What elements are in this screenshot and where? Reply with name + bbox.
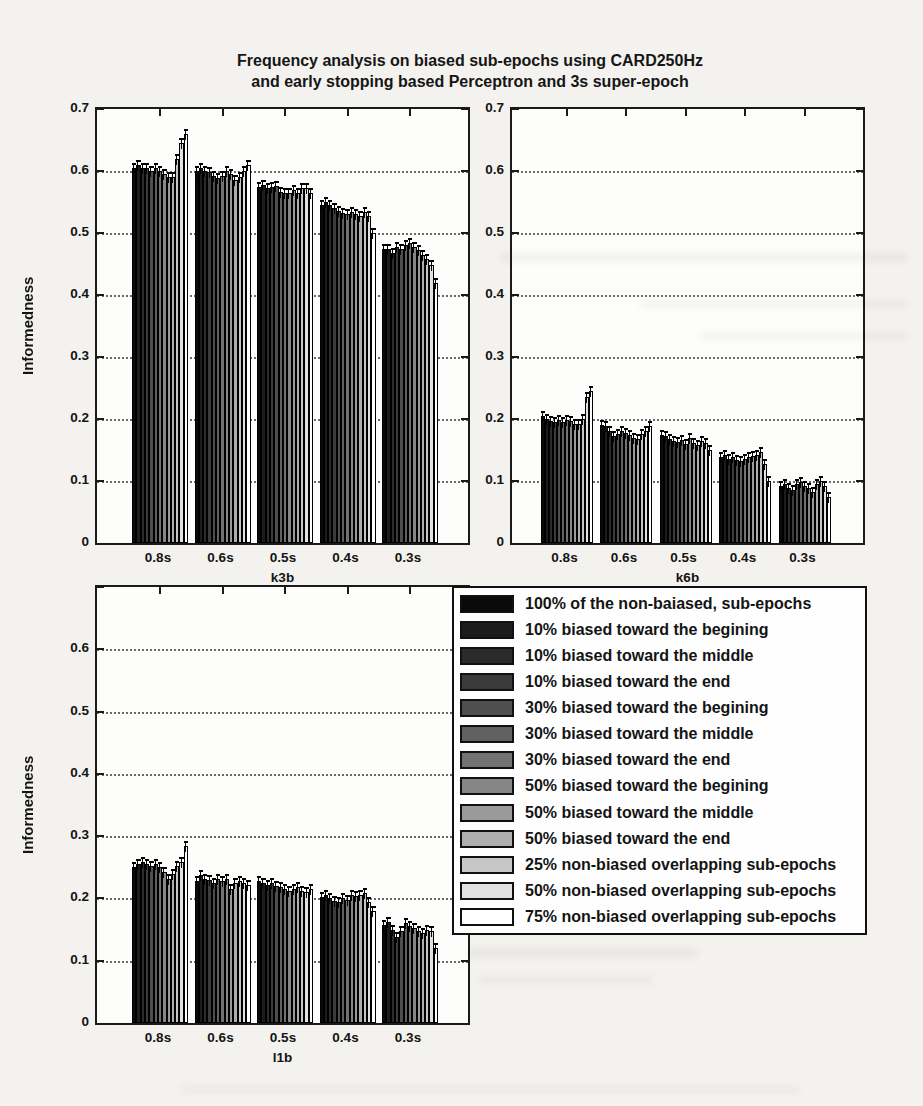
bar xyxy=(246,165,250,543)
y-tick-mark xyxy=(97,170,104,172)
error-bar-cap xyxy=(434,943,438,945)
y-tick-label: 0.7 xyxy=(458,100,504,115)
legend-swatch xyxy=(460,882,514,900)
legend-swatch xyxy=(460,725,514,743)
y-tick-label: 0.6 xyxy=(43,640,89,655)
bar-group xyxy=(382,109,438,543)
y-tick-label: 0.2 xyxy=(458,410,504,425)
legend-label: 30% biased toward the middle xyxy=(525,725,754,743)
error-bar-cap xyxy=(421,250,425,252)
bar xyxy=(648,426,652,543)
error-bar-cap xyxy=(274,181,278,183)
y-tick-label: 0.4 xyxy=(458,286,504,301)
legend-row: 50% non-biased overlapping sub-epochs xyxy=(458,879,861,903)
legend-row: 25% non-biased overlapping sub-epochs xyxy=(458,853,861,877)
legend-swatch xyxy=(460,856,514,874)
error-bar-cap xyxy=(417,245,421,247)
legend-label: 100% of the non-baiased, sub-epochs xyxy=(525,595,811,613)
x-tick-label: 0.3s xyxy=(376,550,440,565)
error-bar-cap xyxy=(292,185,296,187)
y-tick-mark xyxy=(512,356,519,358)
error-bar-cap xyxy=(767,476,771,478)
bar-group xyxy=(257,109,313,543)
y-tick-label: 0 xyxy=(458,534,504,549)
bar-group xyxy=(195,109,251,543)
y-tick-mark xyxy=(97,480,104,482)
y-tick-label: 0.7 xyxy=(43,100,89,115)
error-bar-cap xyxy=(799,477,803,479)
bar xyxy=(309,193,313,543)
y-tick-mark xyxy=(512,170,519,172)
error-bar-cap xyxy=(136,859,140,861)
legend-row: 50% biased toward the end xyxy=(458,827,861,851)
x-tick-label: 0.4s xyxy=(711,550,775,565)
y-tick-label: 0.4 xyxy=(43,765,89,780)
scan-artifact xyxy=(478,976,653,984)
y-tick-mark xyxy=(97,897,104,899)
error-bar-cap xyxy=(184,841,188,843)
error-bar-cap xyxy=(759,447,763,449)
bar xyxy=(371,233,375,543)
error-bar-cap xyxy=(434,278,438,280)
error-bar-cap xyxy=(154,163,158,165)
bar-group xyxy=(779,109,831,543)
legend-swatch xyxy=(460,699,514,717)
y-tick-mark xyxy=(97,835,104,837)
legend-label: 50% biased toward the middle xyxy=(525,804,754,822)
legend-row: 75% non-biased overlapping sub-epochs xyxy=(458,905,861,929)
error-bar-cap xyxy=(136,160,140,162)
plot-area xyxy=(95,585,470,1025)
y-tick-label: 0.3 xyxy=(458,348,504,363)
bar xyxy=(827,497,831,544)
legend-swatch xyxy=(460,777,514,795)
error-bar-cap xyxy=(309,188,313,190)
x-tick-label: 0.8s xyxy=(533,550,597,565)
error-bar-cap xyxy=(358,890,362,892)
error-bar-cap xyxy=(386,917,390,919)
bar xyxy=(184,134,188,543)
y-tick-label: 0.2 xyxy=(43,410,89,425)
error-bar-cap xyxy=(363,207,367,209)
x-tick-label: 0.3s xyxy=(771,550,835,565)
error-bar-cap xyxy=(561,417,565,419)
bar-group xyxy=(320,587,376,1023)
legend-label: 25% non-biased overlapping sub-epochs xyxy=(525,856,836,874)
bar xyxy=(434,283,438,543)
bar-group xyxy=(257,587,313,1023)
error-bar-cap xyxy=(371,906,375,908)
y-tick-mark xyxy=(856,108,863,110)
y-tick-label: 0.5 xyxy=(43,224,89,239)
legend-label: 10% biased toward the middle xyxy=(525,647,754,665)
y-tick-mark xyxy=(97,418,104,420)
bar xyxy=(589,391,593,543)
legend-row: 100% of the non-baiased, sub-epochs xyxy=(458,592,861,616)
error-bar-cap xyxy=(541,411,545,413)
bar xyxy=(184,846,188,1024)
error-bar-cap xyxy=(608,426,612,428)
error-bar-cap xyxy=(429,926,433,928)
error-bar-cap xyxy=(287,886,291,888)
legend-swatch xyxy=(460,751,514,769)
y-tick-mark xyxy=(97,294,104,296)
error-bar-cap xyxy=(229,169,233,171)
y-tick-label: 0.4 xyxy=(43,286,89,301)
y-tick-mark xyxy=(97,586,104,588)
y-tick-label: 0.3 xyxy=(43,827,89,842)
x-axis-label: k6b xyxy=(510,570,865,585)
y-tick-mark xyxy=(856,170,863,172)
legend-swatch xyxy=(460,595,514,613)
y-tick-mark xyxy=(512,480,519,482)
error-bar-cap xyxy=(708,445,712,447)
error-bar-cap xyxy=(589,386,593,388)
error-bar-cap xyxy=(233,878,237,880)
legend-label: 50% biased toward the begining xyxy=(525,777,769,795)
bar-group xyxy=(320,109,376,543)
error-bar-cap xyxy=(648,421,652,423)
error-bar-cap xyxy=(266,183,270,185)
error-bar-cap xyxy=(320,892,324,894)
scanned-figure-page: Frequency analysis on biased sub-epochs … xyxy=(0,0,923,1106)
error-bar-cap xyxy=(604,421,608,423)
scan-artifact xyxy=(180,1086,800,1094)
legend-swatch xyxy=(460,830,514,848)
bar-group xyxy=(132,587,188,1023)
